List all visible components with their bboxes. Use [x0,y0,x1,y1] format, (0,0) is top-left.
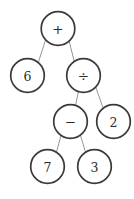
node-label: 2 [110,115,118,130]
expression-tree-figure: +6÷−273 [0,0,134,199]
tree-node-root[interactable]: + [41,12,75,46]
node-layer: +6÷−273 [11,12,131,184]
tree-edge [69,41,75,63]
node-label: 3 [91,160,99,175]
tree-edge [96,87,105,111]
node-label: − [65,114,76,130]
tree-edge [81,136,86,153]
expression-tree-canvas: +6÷−273 [0,0,134,199]
node-label: 7 [44,160,52,175]
node-label: ÷ [78,68,89,84]
tree-edge [76,92,79,106]
tree-node-minus[interactable]: − [54,105,88,139]
tree-node-divide[interactable]: ÷ [67,59,101,93]
tree-edge [57,136,62,153]
tree-edge [38,40,46,64]
node-label: + [52,21,63,37]
tree-node-six[interactable]: 6 [11,59,45,93]
tree-node-two[interactable]: 2 [97,105,131,139]
tree-node-three[interactable]: 3 [78,150,112,184]
tree-node-seven[interactable]: 7 [31,150,65,184]
node-label: 6 [24,69,32,84]
